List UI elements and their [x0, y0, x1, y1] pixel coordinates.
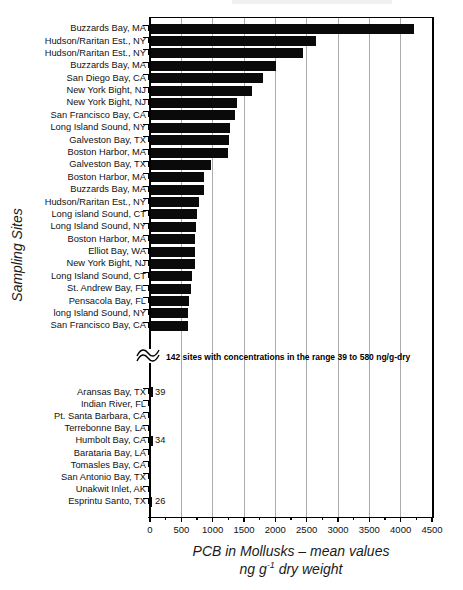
x-axis-tick-label: 2500 — [290, 524, 324, 535]
site-label: Galveston Bay, TX — [0, 159, 146, 170]
gridline — [369, 18, 370, 517]
site-label: Aransas Bay, TX — [0, 387, 146, 398]
site-label: San Diego Bay, CA — [0, 73, 146, 84]
row-tick-icon — [143, 99, 149, 105]
gridline — [338, 18, 339, 517]
site-label: Pensacola Bay, FL — [0, 296, 146, 307]
bar — [151, 259, 195, 269]
bar — [151, 185, 204, 195]
bar — [151, 209, 198, 219]
site-label: Terrebonne Bay, LA — [0, 423, 146, 434]
site-label: New York Bight, NJ — [0, 97, 146, 108]
x-axis-minor-tick — [165, 518, 166, 521]
row-tick-icon — [143, 449, 149, 455]
row-tick-icon — [143, 37, 149, 43]
row-tick-icon — [143, 149, 149, 155]
row-tick-icon — [143, 285, 149, 291]
gridline — [275, 18, 276, 517]
x-axis-tick-label: 500 — [164, 524, 198, 535]
site-label: Esprintu Santo, TX — [0, 496, 146, 507]
row-tick-icon — [143, 186, 149, 192]
row-tick-icon — [143, 136, 149, 142]
site-label: Tomasles Bay, CA — [0, 460, 146, 471]
bar — [151, 387, 153, 397]
x-axis-minor-tick — [322, 518, 323, 521]
site-label: Hudson/Raritan Est., NY — [0, 197, 146, 208]
bar — [151, 36, 316, 46]
x-axis-units: ng g — [240, 561, 267, 577]
row-tick-icon — [143, 461, 149, 467]
bar — [151, 172, 204, 182]
row-tick-icon — [143, 198, 149, 204]
bar — [151, 73, 263, 83]
bar — [151, 296, 190, 306]
value-annotation: 26 — [155, 496, 165, 507]
x-axis-tick-label: 1000 — [196, 524, 230, 535]
row-tick-icon — [143, 297, 149, 303]
bar — [151, 135, 229, 145]
site-label: St. Andrew Bay, FL — [0, 283, 146, 294]
site-label: Galveston Bay, TX — [0, 135, 146, 146]
x-axis-tick — [431, 518, 432, 522]
axis-break-annotation: 142 sites with concentrations in the ran… — [166, 352, 410, 362]
site-label: Humbolt Bay, CA — [0, 435, 146, 446]
site-label: Unakwit Inlet, AK — [0, 484, 146, 495]
bar — [151, 234, 196, 244]
x-axis-units-exponent: -1 — [267, 560, 275, 570]
row-tick-icon — [143, 260, 149, 266]
site-label: Long Island Sound, NY — [0, 221, 146, 232]
site-label: Long island Sound, CT — [0, 209, 146, 220]
site-label: long Island Sound, NY — [0, 308, 146, 319]
site-label: Boston Harbor, MA — [0, 172, 146, 183]
row-tick-icon — [143, 498, 149, 504]
site-label: Long Island Sound, NY — [0, 122, 146, 133]
site-label: Hudson/Raritan Est., NY — [0, 36, 146, 47]
row-tick-icon — [143, 309, 149, 315]
gridline — [306, 18, 307, 517]
x-axis-tick — [243, 518, 244, 522]
site-label: San Antonio Bay, TX — [0, 472, 146, 483]
x-axis-tick — [369, 518, 370, 522]
x-axis-units-rest: dry weight — [275, 561, 343, 577]
row-tick-icon — [143, 473, 149, 479]
axis-break-icon — [135, 345, 161, 365]
bar — [151, 98, 237, 108]
x-axis-tick-label: 4500 — [415, 524, 449, 535]
x-axis-tick-label: 4000 — [384, 524, 418, 535]
x-axis-tick — [275, 518, 276, 522]
site-label: San Francisco Bay, CA — [0, 320, 146, 331]
row-tick-icon — [143, 248, 149, 254]
x-axis-tick — [181, 518, 182, 522]
row-tick-icon — [143, 486, 149, 492]
row-tick-icon — [143, 437, 149, 443]
bar — [151, 197, 199, 207]
site-label: Boston Harbor, MA — [0, 234, 146, 245]
plot-right-border — [432, 17, 434, 519]
bar — [151, 284, 192, 294]
x-axis-tick — [400, 518, 401, 522]
x-axis-minor-tick — [259, 518, 260, 521]
cropped-page-artifact — [232, 0, 392, 4]
x-axis-minor-tick — [353, 518, 354, 521]
bar — [151, 222, 196, 232]
row-tick-icon — [143, 173, 149, 179]
site-label: Barataria Bay, LA — [0, 448, 146, 459]
value-annotation: 34 — [155, 435, 165, 446]
site-label: Buzzards Bay, MA — [0, 184, 146, 195]
bar — [151, 123, 231, 133]
x-axis-minor-tick — [416, 518, 417, 521]
row-tick-icon — [143, 49, 149, 55]
row-tick-icon — [143, 425, 149, 431]
x-axis-title-line1: PCB in Mollusks – mean values — [120, 543, 462, 559]
row-tick-icon — [143, 412, 149, 418]
x-axis-tick-label: 2000 — [258, 524, 292, 535]
x-axis-tick — [337, 518, 338, 522]
x-axis-title-line2: ng g-1 dry weight — [120, 560, 462, 577]
site-label: Indian River, FL — [0, 399, 146, 410]
bar — [151, 308, 189, 318]
bar — [151, 321, 188, 331]
site-label: Buzzards Bay, MA — [0, 60, 146, 71]
bar — [151, 436, 153, 446]
bar — [151, 247, 195, 257]
row-tick-icon — [143, 272, 149, 278]
